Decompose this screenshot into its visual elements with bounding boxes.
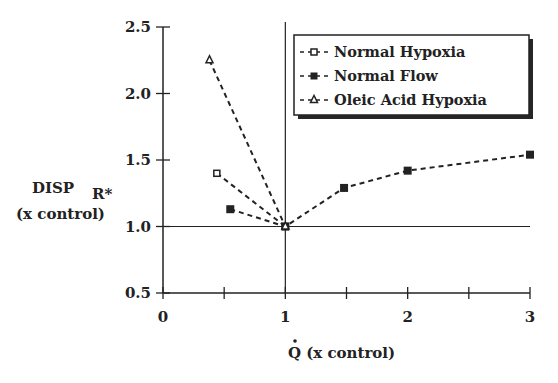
open-square-marker — [311, 49, 317, 55]
y-axis-title-unit: (x control) — [16, 205, 105, 223]
y-tick-label: 2.5 — [125, 18, 151, 36]
legend-label: Normal Flow — [334, 67, 438, 84]
open-square-marker — [214, 170, 220, 176]
filled-square-marker — [311, 73, 318, 80]
filled-square-marker — [404, 167, 412, 175]
y-axis-title-main: DISP — [32, 179, 74, 197]
y-axis-title-subscript: R* — [92, 185, 112, 203]
y-tick-label: 2.0 — [125, 85, 151, 103]
x-tick-label: 2 — [402, 308, 412, 326]
y-tick-label: 1.0 — [125, 218, 151, 236]
legend-label: Oleic Acid Hypoxia — [334, 91, 488, 108]
x-axis-title: Q (x control) — [288, 339, 395, 362]
series-line — [209, 60, 285, 226]
series-oleic-acid-hypoxia — [206, 56, 289, 229]
series-line — [217, 173, 286, 226]
series-normal-hypoxia — [214, 170, 289, 229]
filled-square-marker — [526, 151, 534, 159]
x-tick-label: 0 — [158, 308, 168, 326]
x-tick-label: 1 — [280, 308, 290, 326]
legend-label: Normal Hypoxia — [334, 43, 466, 60]
y-tick-label: 0.5 — [125, 284, 151, 302]
x-tick-label: 3 — [525, 308, 535, 326]
open-triangle-marker — [206, 56, 213, 63]
q-dot-icon — [293, 339, 297, 343]
filled-square-marker — [340, 184, 348, 192]
x-axis-title-unit: (x control) — [301, 344, 395, 362]
legend: Normal HypoxiaNormal FlowOleic Acid Hypo… — [294, 35, 533, 119]
chart: 0.51.01.52.02.50123 DISP R* (x control) … — [0, 0, 558, 383]
y-tick-label: 1.5 — [125, 151, 151, 169]
filled-square-marker — [226, 205, 234, 213]
y-axis-title: DISP R* (x control) — [16, 179, 112, 223]
series-line — [230, 155, 530, 227]
x-axis-title-symbol: Q — [288, 344, 301, 362]
series-normal-flow — [226, 151, 534, 231]
